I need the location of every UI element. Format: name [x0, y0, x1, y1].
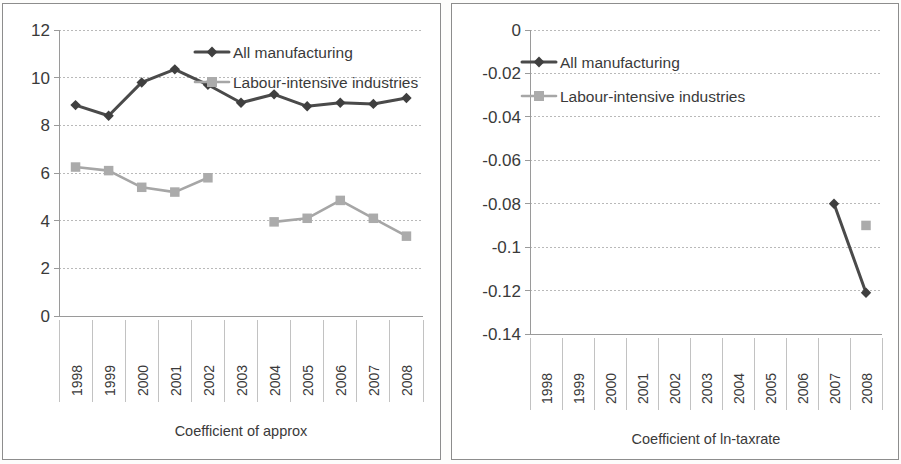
x-axis-tick-label: 1998: [539, 373, 555, 404]
x-axis-tick-label: 2007: [366, 365, 382, 396]
right-plot-area: 0-0.02-0.04-0.06-0.08-0.1-0.12-0.1419981…: [452, 4, 898, 459]
x-axis-tick-label: 2001: [168, 365, 184, 396]
data-point-marker: [335, 97, 345, 107]
right-chart-svg: 0-0.02-0.04-0.06-0.08-0.1-0.12-0.1419981…: [452, 4, 897, 460]
chart-panel-coefficient-of-ln-taxrate: 0-0.02-0.04-0.06-0.08-0.1-0.12-0.1419981…: [451, 3, 899, 460]
data-point-marker: [71, 162, 81, 172]
x-axis-tick-label: 2001: [635, 373, 651, 404]
y-axis-tick-label: 12: [31, 21, 50, 40]
x-axis-tick-label: 1999: [102, 365, 118, 396]
legend-label-2: Labour-intensive industries: [560, 88, 745, 105]
y-axis-tick-label: -0.04: [482, 108, 521, 127]
x-axis-tick-label: 2002: [667, 373, 683, 404]
legend-marker-diamond: [534, 57, 545, 68]
data-point-marker: [829, 199, 839, 209]
x-axis-tick-label: 2005: [300, 365, 316, 396]
data-point-marker: [302, 214, 312, 224]
data-point-marker: [401, 93, 411, 103]
data-point-marker: [170, 187, 180, 197]
left-plot-area: 0246810121998199920002001200220032004200…: [3, 4, 440, 459]
data-point-marker: [203, 173, 213, 183]
x-axis-tick-label: 2005: [763, 373, 779, 404]
data-point-marker: [402, 231, 412, 241]
x-axis-tick-label: 2004: [267, 365, 283, 396]
data-point-marker: [861, 221, 871, 231]
x-axis-tick-label: 2003: [234, 365, 250, 396]
legend-marker-square: [207, 77, 217, 87]
data-point-marker: [170, 64, 180, 74]
x-axis-tick-label: 2007: [827, 373, 843, 404]
left-chart-svg: 0246810121998199920002001200220032004200…: [3, 4, 439, 460]
data-point-marker: [861, 288, 871, 298]
y-axis-tick-label: -0.02: [482, 64, 521, 83]
y-axis-tick-label: 4: [41, 212, 50, 231]
x-axis-tick-label: 2003: [699, 373, 715, 404]
y-axis-tick-label: -0.1: [492, 238, 521, 257]
x-axis-tick-label: 2002: [201, 365, 217, 396]
data-point-marker: [302, 101, 312, 111]
legend-marker-diamond: [207, 47, 218, 58]
legend-label-2: Labour-intensive industries: [233, 74, 418, 91]
y-axis-tick-label: 6: [41, 164, 50, 183]
x-axis-tick-label: 2006: [795, 373, 811, 404]
y-axis-tick-label: 0: [41, 307, 50, 326]
series-line-1: [834, 204, 866, 293]
data-point-marker: [369, 214, 379, 224]
legend-label-1: All manufacturing: [560, 54, 680, 71]
figure-two-panel-line-charts: 0246810121998199920002001200220032004200…: [0, 0, 901, 464]
legend-marker-square: [534, 91, 544, 101]
x-axis-tick-label: 2006: [333, 365, 349, 396]
data-point-marker: [70, 100, 80, 110]
y-axis-tick-label: 8: [41, 116, 50, 135]
x-axis-tick-label: 2000: [603, 373, 619, 404]
y-axis-tick-label: 0: [512, 21, 521, 40]
data-point-marker: [104, 166, 114, 176]
y-axis-tick-label: -0.14: [482, 325, 521, 344]
x-axis-title: Coefficient of ln-taxrate: [632, 431, 781, 447]
x-axis-tick-label: 2000: [135, 365, 151, 396]
series-line-2: [274, 200, 406, 236]
y-axis-tick-label: -0.06: [482, 151, 521, 170]
x-axis-title: Coefficient of approx: [175, 423, 308, 439]
panel-gap: [443, 0, 449, 464]
x-axis-tick-label: 2008: [859, 373, 875, 404]
data-point-marker: [368, 99, 378, 109]
data-point-marker: [336, 196, 346, 206]
y-axis-tick-label: -0.08: [482, 195, 521, 214]
legend-label-1: All manufacturing: [233, 44, 353, 61]
y-axis-tick-label: -0.12: [482, 282, 521, 301]
x-axis-tick-label: 2008: [399, 365, 415, 396]
x-axis-tick-label: 1999: [571, 373, 587, 404]
chart-panel-coefficient-of-approx: 0246810121998199920002001200220032004200…: [2, 3, 441, 460]
data-point-marker: [137, 183, 147, 193]
data-point-marker: [269, 217, 279, 227]
x-axis-tick-label: 1998: [69, 365, 85, 396]
y-axis-tick-label: 2: [41, 259, 50, 278]
y-axis-tick-label: 10: [31, 69, 50, 88]
x-axis-tick-label: 2004: [731, 373, 747, 404]
